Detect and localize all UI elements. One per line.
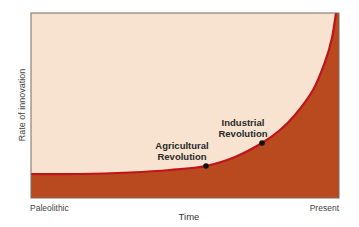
agricultural-revolution-label: Agricultural Revolution [155, 140, 208, 162]
industrial-revolution-label: Industrial Revolution [218, 117, 267, 139]
x-axis-label: Time [179, 211, 200, 222]
agricultural-revolution-point [203, 163, 209, 169]
innovation-chart [0, 0, 359, 227]
y-axis-label: Rate of innovation [17, 69, 27, 142]
x-tick-paleolithic: Paleolithic [30, 203, 69, 213]
industrial-revolution-point [259, 140, 265, 146]
x-tick-present: Present [310, 203, 339, 213]
